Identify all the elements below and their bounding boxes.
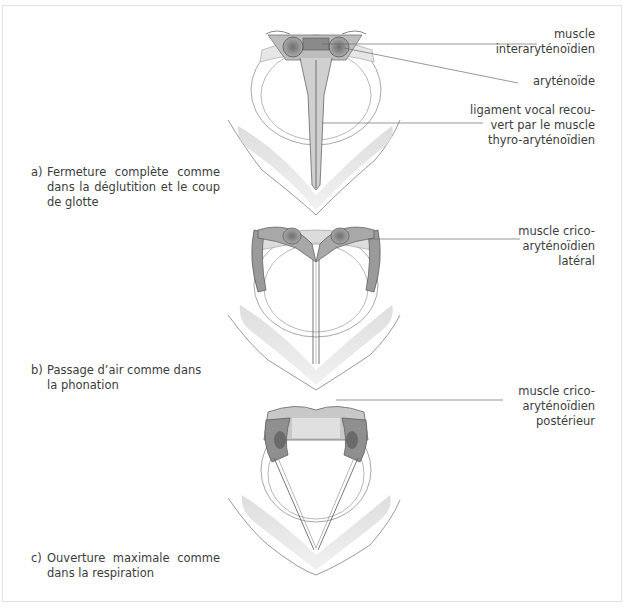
larynx-diagrams (0, 0, 627, 608)
label-line: interaryténoïdien (496, 42, 595, 57)
label-line: ligament vocal recou- (470, 103, 595, 118)
caption-a: a) Fermeture complète comme dans la dégl… (47, 165, 220, 210)
label-line: aryténoïde (533, 74, 595, 89)
caption-b-letter: b) (31, 363, 43, 378)
label-line: postérieur (518, 414, 595, 429)
caption-a-text: Fermeture complète comme dans la dégluti… (47, 165, 220, 210)
caption-c-letter: c) (31, 551, 42, 566)
label-line: muscle crico- (518, 224, 595, 239)
label-line: latéral (518, 254, 595, 269)
label-line: aryténoïdien (518, 399, 595, 414)
caption-b-text: Passage d’air comme dans la phonation (47, 363, 207, 393)
label-line: aryténoïdien (518, 239, 595, 254)
panel-b-diagram (228, 227, 520, 390)
panel-c-diagram (228, 400, 503, 575)
caption-a-letter: a) (31, 165, 43, 180)
label-vocal-ligament: ligament vocal recou- vert par le muscle… (470, 103, 595, 148)
label-interarytenoid-muscle: muscle interaryténoïdien (496, 27, 595, 57)
label-lateral-cricoarytenoid: muscle crico- aryténoïdien latéral (518, 224, 595, 269)
label-line: thyro-aryténoïdien (470, 133, 595, 148)
caption-b: b) Passage d’air comme dans la phonation (47, 363, 207, 393)
label-line: muscle crico- (518, 384, 595, 399)
caption-c: c) Ouverture maximale comme dans la resp… (47, 551, 220, 581)
caption-c-text: Ouverture maximale comme dans la respira… (47, 551, 220, 581)
label-line: muscle (496, 27, 595, 42)
label-arytenoid: aryténoïde (533, 74, 595, 89)
label-posterior-cricoarytenoid: muscle crico- aryténoïdien postérieur (518, 384, 595, 429)
label-line: vert par le muscle (470, 118, 595, 133)
